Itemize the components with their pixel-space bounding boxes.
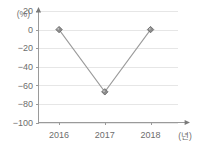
- y-axis-tick-label: −100: [13, 118, 33, 128]
- y-axis-tick-label: 0: [28, 25, 33, 35]
- x-axis-labels: 201620172018: [49, 130, 161, 140]
- x-axis-tick-label: 2018: [141, 130, 161, 140]
- line-chart: 200−20−40−60−80−100 201620172018 (%) (년): [0, 0, 205, 152]
- chart-container: 200−20−40−60−80−100 201620172018 (%) (년): [0, 0, 205, 152]
- y-axis-tick-label: −20: [18, 43, 33, 53]
- y-axis-caption: (%): [17, 9, 30, 19]
- x-axis-caption: (년): [178, 131, 192, 141]
- x-axis-tick-label: 2017: [95, 130, 115, 140]
- x-axis-tick-label: 2016: [49, 130, 69, 140]
- y-axis-tick-label: −40: [18, 62, 33, 72]
- y-axis-tick-label: −80: [18, 99, 33, 109]
- y-axis-tick-label: −60: [18, 81, 33, 91]
